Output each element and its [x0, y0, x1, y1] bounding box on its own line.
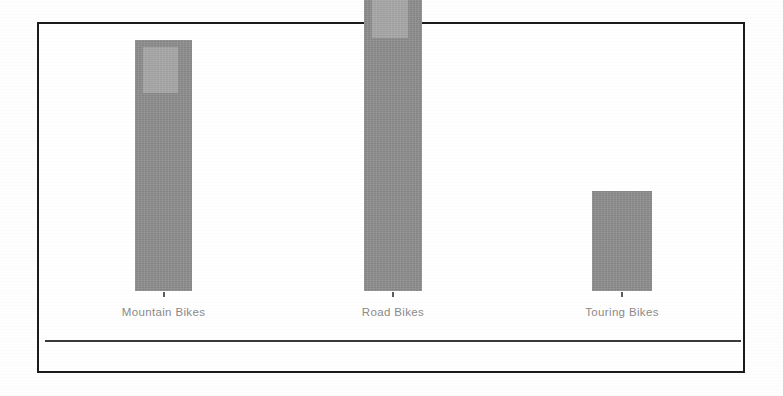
- category-label-touring-bikes: Touring Bikes: [512, 305, 732, 319]
- axis-tick-touring-bikes: [621, 292, 623, 297]
- category-label-mountain-bikes: Mountain Bikes: [55, 305, 272, 319]
- scanned-page: Mountain Bikes Road Bikes Touring Bikes: [0, 0, 783, 396]
- chart-frame: Mountain Bikes Road Bikes Touring Bikes: [37, 22, 745, 373]
- bar-group-mountain-bikes[interactable]: Mountain Bikes: [135, 24, 192, 371]
- axis-tick-mountain-bikes: [163, 292, 165, 297]
- bar-mountain-bikes[interactable]: [135, 40, 192, 291]
- category-label-road-bikes: Road Bikes: [284, 305, 502, 319]
- bar-touring-bikes[interactable]: [592, 191, 652, 291]
- bar-group-road-bikes[interactable]: Road Bikes: [364, 24, 422, 371]
- axis-tick-road-bikes: [392, 292, 394, 297]
- plot-area: Mountain Bikes Road Bikes Touring Bikes: [39, 24, 743, 371]
- bar-highlight-mountain-bikes: [143, 47, 178, 93]
- bars-layer: Mountain Bikes Road Bikes Touring Bikes: [39, 24, 743, 371]
- bar-highlight-road-bikes: [372, 0, 408, 38]
- bar-group-touring-bikes[interactable]: Touring Bikes: [592, 24, 652, 371]
- bar-road-bikes[interactable]: [364, 0, 422, 291]
- category-axis-line: [45, 340, 741, 342]
